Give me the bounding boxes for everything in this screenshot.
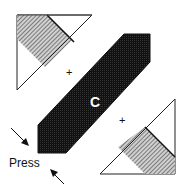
center-label: C bbox=[90, 94, 100, 110]
lower-right-triangle bbox=[100, 99, 175, 174]
plus-mark-upper: + bbox=[66, 67, 72, 78]
upper-left-triangle bbox=[17, 15, 92, 90]
plus-mark-lower: + bbox=[119, 115, 125, 126]
arrow-down-right-icon bbox=[11, 128, 29, 146]
press-label: Press bbox=[9, 156, 40, 170]
press-diagram: + + C Press bbox=[0, 0, 184, 190]
arrow-up-left-icon bbox=[50, 169, 64, 184]
